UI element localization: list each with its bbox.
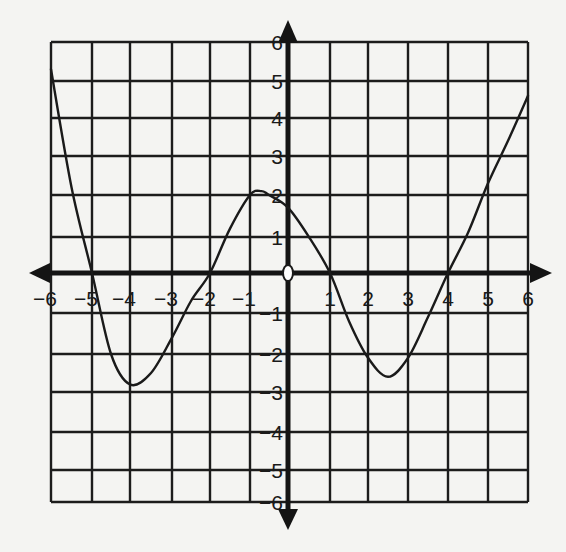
function-graph: −6−5−4−3−2−1123456 654321−1−2−3−4−5−6 (0, 0, 566, 552)
x-tick-label: −1 (232, 287, 256, 310)
y-tick-label: 3 (271, 145, 283, 168)
y-tick-label: 1 (271, 226, 283, 249)
x-tick-label: 3 (402, 287, 414, 310)
x-tick-label: 6 (522, 287, 534, 310)
x-axis-right-arrow-icon (530, 263, 552, 283)
y-tick-label: −4 (259, 421, 283, 444)
x-tick-label: −3 (154, 287, 178, 310)
y-tick-label: 5 (271, 70, 283, 93)
x-tick-label: 2 (362, 287, 374, 310)
y-tick-label: 6 (271, 31, 283, 54)
x-tick-label: 4 (442, 287, 454, 310)
origin-open-circle (283, 265, 293, 281)
x-tick-label: −6 (33, 287, 57, 310)
y-tick-label: 4 (271, 107, 283, 130)
x-tick-label: 5 (482, 287, 494, 310)
y-tick-label: −2 (259, 343, 283, 366)
y-tick-label: 2 (271, 184, 283, 207)
x-tick-label: −2 (192, 287, 216, 310)
x-tick-label: −5 (74, 287, 98, 310)
x-tick-label: −4 (112, 287, 136, 310)
x-axis-left-arrow-icon (29, 263, 50, 283)
x-tick-label: 1 (324, 287, 336, 310)
x-axis-tick-labels: −6−5−4−3−2−1123456 (33, 287, 534, 310)
y-tick-label: −5 (259, 459, 283, 482)
y-tick-label: −6 (259, 491, 283, 514)
y-tick-label: −3 (259, 381, 283, 404)
y-tick-label: −1 (259, 302, 283, 325)
